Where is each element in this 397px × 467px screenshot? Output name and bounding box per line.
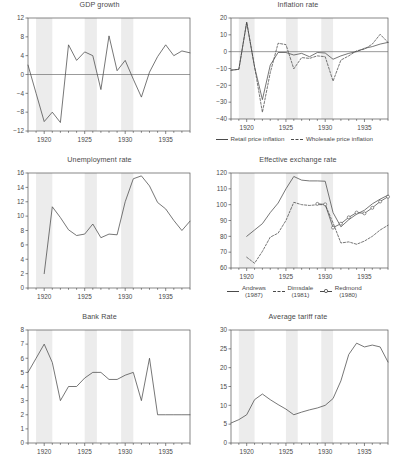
- y-tick-label: 0: [20, 284, 24, 291]
- shaded-band: [121, 330, 133, 443]
- x-tick-label: 1935: [357, 273, 372, 280]
- shaded-band: [321, 18, 333, 119]
- x-tick-label: 1925: [279, 273, 294, 280]
- y-tick-label: 10: [220, 402, 228, 409]
- y-tick-label: −10: [216, 65, 227, 72]
- legend-label-year: (1987): [242, 291, 266, 298]
- y-tick-label: 5: [223, 420, 227, 427]
- legend-swatch-icon: [273, 288, 285, 294]
- series-line: [44, 176, 190, 274]
- plot-area-effective-exchange-rate: 607080901001101201920192519301935: [231, 173, 388, 268]
- y-tick-label: 4: [20, 383, 24, 390]
- y-tick-label: 10: [17, 212, 25, 219]
- x-tick-label: 1920: [37, 293, 52, 300]
- chart-panel-inflation-rate: Inflation rate−40−30−20−1001020192019251…: [199, 0, 397, 155]
- x-tick-label: 1935: [159, 136, 174, 143]
- x-tick-label: 1925: [78, 136, 93, 143]
- y-tick-label: 14: [17, 184, 25, 191]
- y-tick-label: −12: [13, 127, 24, 134]
- y-tick-label: 3: [20, 397, 24, 404]
- y-tick-label: −4: [17, 90, 25, 97]
- legend-label: Andrews(1987): [242, 284, 266, 298]
- y-tick-label: 4: [20, 52, 24, 59]
- y-tick-label: 70: [220, 248, 228, 255]
- legend-label-year: (1980): [335, 291, 362, 298]
- legend-swatch-icon: [227, 288, 239, 294]
- y-tick-label: 12: [17, 198, 25, 205]
- y-tick-label: 0: [223, 439, 227, 446]
- legend-item: Andrews(1987): [227, 284, 266, 298]
- y-tick-label: 60: [220, 264, 228, 271]
- legend-swatch-icon: [320, 288, 332, 294]
- chart-title-average-tariff-rate: Average tariff rate: [199, 312, 397, 321]
- x-tick-label: 1930: [318, 124, 333, 131]
- shaded-band: [239, 18, 255, 119]
- plot-area-unemployment-rate: 02468101214161920192519301935: [28, 173, 190, 288]
- y-tick-label: 25: [220, 345, 228, 352]
- y-tick-label: 6: [20, 241, 24, 248]
- y-tick-label: 8: [20, 227, 24, 234]
- chart-legend-effective-exchange-rate: Andrews(1987)Dimsdale(1981)Redmond(1980): [199, 284, 397, 298]
- series-line: [247, 176, 388, 236]
- y-tick-label: 7: [20, 340, 24, 347]
- series-marker: [339, 222, 342, 225]
- series-marker: [316, 202, 319, 205]
- series-marker: [387, 195, 390, 198]
- y-tick-label: 15: [220, 383, 228, 390]
- legend-label-name: Dimsdale: [287, 284, 313, 291]
- series-marker: [379, 200, 382, 203]
- chart-panel-unemployment-rate: Unemployment rate02468101214161920192519…: [0, 155, 199, 312]
- x-tick-label: 1925: [78, 448, 93, 455]
- x-tick-label: 1930: [318, 273, 333, 280]
- shaded-band: [286, 18, 298, 119]
- shaded-band: [239, 173, 255, 268]
- legend-label: Retail price inflation: [230, 135, 284, 142]
- x-tick-label: 1930: [118, 293, 133, 300]
- chart-title-bank-rate: Bank Rate: [0, 312, 199, 321]
- chart-title-effective-exchange-rate: Effective exchange rate: [199, 155, 397, 164]
- x-tick-label: 1930: [118, 448, 133, 455]
- y-tick-label: 10: [220, 31, 228, 38]
- legend-item: Wholesale price inflation: [291, 135, 373, 142]
- legend-label-name: Andrews: [242, 284, 266, 291]
- y-tick-label: 1: [20, 425, 24, 432]
- x-tick-label: 1930: [318, 448, 333, 455]
- y-tick-label: 8: [20, 33, 24, 40]
- legend-label-year: (1981): [287, 291, 313, 298]
- y-tick-label: 6: [20, 355, 24, 362]
- figure-panel-grid: GDP growth−12−8−4048121920192519301935In…: [0, 0, 397, 467]
- y-tick-label: 8: [20, 326, 24, 333]
- y-tick-label: 110: [217, 185, 228, 192]
- y-tick-label: 20: [220, 14, 228, 21]
- legend-label: Wholesale price inflation: [306, 135, 373, 142]
- y-tick-label: 100: [216, 201, 227, 208]
- y-tick-label: −20: [216, 82, 227, 89]
- chart-panel-average-tariff-rate: Average tariff rate051015202530192019251…: [199, 312, 397, 467]
- x-tick-label: 1925: [279, 124, 294, 131]
- y-tick-label: 2: [20, 270, 24, 277]
- y-tick-label: −30: [216, 98, 227, 105]
- legend-item: Retail price inflation: [216, 135, 285, 142]
- x-tick-label: 1920: [240, 448, 255, 455]
- series-marker: [347, 216, 350, 219]
- x-tick-label: 1920: [240, 273, 255, 280]
- x-tick-label: 1935: [159, 293, 174, 300]
- series-line: [231, 22, 388, 99]
- shaded-band: [239, 330, 255, 443]
- y-tick-label: −8: [17, 108, 25, 115]
- x-tick-label: 1920: [37, 448, 52, 455]
- y-tick-label: −40: [216, 115, 227, 122]
- legend-label-name: Redmond: [335, 284, 362, 291]
- y-tick-label: 4: [20, 256, 24, 263]
- shaded-band: [321, 173, 333, 268]
- chart-panel-effective-exchange-rate: Effective exchange rate60708090100110120…: [199, 155, 397, 312]
- y-tick-label: 16: [17, 169, 25, 176]
- y-tick-label: 5: [20, 369, 24, 376]
- series-marker: [332, 226, 335, 229]
- series-marker: [355, 211, 358, 214]
- shaded-band: [121, 173, 133, 288]
- y-tick-label: 12: [17, 14, 25, 21]
- shaded-band: [36, 330, 52, 443]
- x-tick-label: 1925: [78, 293, 93, 300]
- shaded-band: [286, 173, 298, 268]
